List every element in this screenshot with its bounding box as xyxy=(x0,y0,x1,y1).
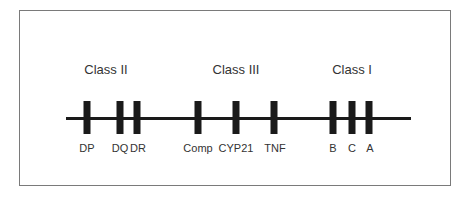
gene-bar-a xyxy=(366,101,373,134)
gene-bar-b xyxy=(330,101,337,134)
gene-label-b: B xyxy=(329,142,336,154)
gene-label-dr: DR xyxy=(130,142,146,154)
class-i-label: Class I xyxy=(332,62,372,77)
gene-label-c: C xyxy=(348,142,356,154)
gene-bar-dq xyxy=(117,101,124,134)
class-ii-label: Class II xyxy=(84,62,127,77)
diagram-frame xyxy=(19,10,451,186)
gene-bar-dr xyxy=(134,101,141,134)
gene-bar-comp xyxy=(195,101,202,134)
gene-bar-tnf xyxy=(271,101,278,134)
gene-label-cyp21: CYP21 xyxy=(219,142,254,154)
gene-bar-cyp21 xyxy=(233,101,240,134)
gene-label-tnf: TNF xyxy=(264,142,285,154)
gene-bar-dp xyxy=(84,101,91,134)
gene-label-comp: Comp xyxy=(183,142,212,154)
gene-label-a: A xyxy=(366,142,373,154)
gene-bar-c xyxy=(349,101,356,134)
class-iii-label: Class III xyxy=(213,62,260,77)
gene-label-dp: DP xyxy=(79,142,94,154)
gene-label-dq: DQ xyxy=(112,142,129,154)
